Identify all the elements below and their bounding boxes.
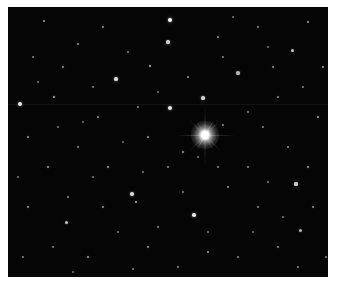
star <box>307 166 309 168</box>
star <box>262 126 264 128</box>
star-field-image <box>8 7 328 277</box>
star <box>192 213 196 217</box>
star <box>47 166 49 168</box>
star <box>137 106 139 108</box>
star <box>62 66 64 68</box>
star <box>92 176 94 178</box>
star <box>72 271 74 273</box>
star <box>201 96 204 99</box>
star <box>77 43 79 45</box>
star <box>197 156 199 158</box>
star <box>107 166 109 168</box>
star <box>166 40 169 43</box>
star <box>77 146 79 148</box>
star <box>130 192 133 195</box>
star <box>82 121 84 123</box>
star <box>277 246 279 248</box>
star <box>227 186 229 188</box>
star <box>217 36 219 38</box>
star <box>127 51 129 53</box>
star <box>217 166 219 168</box>
star <box>65 221 68 224</box>
star <box>27 206 29 208</box>
star <box>222 56 224 58</box>
star <box>182 191 184 193</box>
star <box>132 268 134 270</box>
star <box>142 171 144 173</box>
star <box>267 46 269 48</box>
star <box>247 166 249 168</box>
star <box>291 49 294 52</box>
star <box>97 116 99 118</box>
star <box>149 65 152 68</box>
star <box>325 256 327 258</box>
star <box>232 16 234 18</box>
star <box>277 96 279 98</box>
star <box>287 146 289 148</box>
star <box>147 136 149 138</box>
star <box>87 256 89 258</box>
star <box>157 91 159 93</box>
star <box>257 206 259 208</box>
star <box>117 231 119 233</box>
star <box>37 81 39 83</box>
star <box>135 201 138 204</box>
star <box>272 66 274 68</box>
star <box>168 18 172 22</box>
star <box>236 71 239 74</box>
star <box>32 56 34 58</box>
star <box>297 266 299 268</box>
star <box>247 111 249 113</box>
sensor-artifact-line <box>8 104 328 105</box>
star <box>53 96 56 99</box>
star <box>182 151 184 153</box>
star <box>92 86 94 88</box>
star <box>122 141 124 143</box>
star <box>67 196 69 198</box>
star <box>22 256 24 258</box>
star <box>252 231 254 233</box>
star <box>302 86 304 88</box>
star <box>167 166 169 168</box>
star <box>57 126 59 128</box>
star <box>294 182 297 185</box>
star <box>168 106 172 110</box>
star <box>322 66 324 68</box>
star <box>222 124 224 126</box>
star <box>307 21 309 23</box>
star <box>317 116 319 118</box>
star <box>312 206 314 208</box>
star <box>102 206 104 208</box>
star <box>157 226 159 228</box>
star <box>207 251 209 253</box>
star <box>267 181 269 183</box>
star <box>177 266 179 268</box>
star <box>299 229 302 232</box>
star <box>237 256 239 258</box>
star <box>52 246 54 248</box>
star <box>207 231 209 233</box>
star <box>18 102 22 106</box>
star <box>27 136 29 138</box>
star <box>187 76 189 78</box>
star <box>17 176 19 178</box>
star <box>257 26 259 28</box>
star <box>147 246 149 248</box>
star <box>282 216 284 218</box>
star <box>102 26 104 28</box>
star <box>43 20 45 22</box>
star <box>114 77 117 80</box>
